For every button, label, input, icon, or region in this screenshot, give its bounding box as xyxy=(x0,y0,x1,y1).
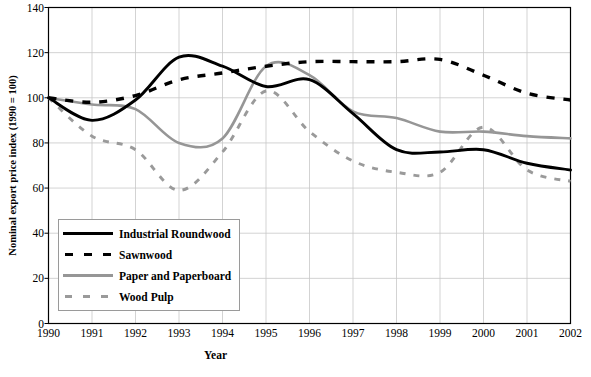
plot-area xyxy=(0,0,591,377)
x-tick-label: 1990 xyxy=(37,327,60,339)
legend-item: Paper and Paperboard xyxy=(59,265,239,286)
x-tick-label: 1992 xyxy=(124,327,147,339)
line-chart: Nominal export price index (1990 = 100) … xyxy=(0,0,591,377)
legend-item: Sawnwood xyxy=(59,244,239,265)
x-tick-label: 1999 xyxy=(429,327,452,339)
legend-key-solid-black xyxy=(59,228,117,240)
x-tick-label: 1993 xyxy=(168,327,191,339)
legend-swatch xyxy=(65,295,111,298)
x-tick-label: 2002 xyxy=(559,327,582,339)
x-axis-title: Year xyxy=(0,349,591,361)
x-axis-title-text: Year xyxy=(204,349,227,361)
x-tick-label: 2001 xyxy=(516,327,539,339)
legend-swatch xyxy=(63,274,113,277)
legend-item: Industrial Roundwood xyxy=(59,223,239,244)
legend-key-solid-gray xyxy=(59,270,117,282)
legend-swatch xyxy=(63,232,113,235)
x-tick-label: 1996 xyxy=(298,327,321,339)
legend-label: Industrial Roundwood xyxy=(117,228,231,240)
legend: Industrial RoundwoodSawnwoodPaper and Pa… xyxy=(58,219,240,311)
legend-swatch xyxy=(65,253,111,256)
x-tick-label: 1997 xyxy=(342,327,365,339)
x-tick-label: 1994 xyxy=(211,327,234,339)
legend-label: Wood Pulp xyxy=(117,291,174,303)
legend-label: Sawnwood xyxy=(117,249,172,261)
legend-key-dash-black xyxy=(59,249,117,261)
x-tick-label: 1998 xyxy=(385,327,408,339)
x-tick-label: 1995 xyxy=(255,327,278,339)
legend-label: Paper and Paperboard xyxy=(117,270,231,282)
x-tick-label: 2000 xyxy=(472,327,495,339)
legend-item: Wood Pulp xyxy=(59,286,239,307)
legend-key-dash-gray xyxy=(59,291,117,303)
x-tick-label: 1991 xyxy=(81,327,104,339)
